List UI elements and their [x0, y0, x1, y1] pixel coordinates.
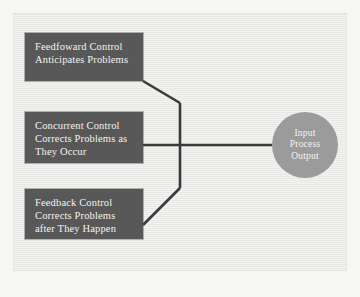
node-feedforward-line-1: Feedfoward Control: [35, 40, 134, 53]
node-system-line-3: Output: [291, 151, 319, 163]
node-concurrent-line-3: They Occur: [35, 145, 134, 158]
node-feedforward-control: Feedfoward Control Anticipates Problems: [25, 33, 143, 81]
node-feedback-line-2: Corrects Problems: [35, 209, 134, 222]
node-concurrent-line-2: Corrects Problems as: [35, 132, 134, 145]
node-system-line-1: Input: [294, 128, 315, 140]
diagram-canvas: Feedfoward Control Anticipates Problems …: [0, 0, 360, 297]
node-system-line-2: Process: [290, 139, 320, 151]
node-feedback-line-3: after They Happen: [35, 222, 134, 235]
node-input-process-output: Input Process Output: [272, 112, 338, 178]
node-concurrent-line-1: Concurrent Control: [35, 119, 134, 132]
node-feedback-line-1: Feedback Control: [35, 196, 134, 209]
node-concurrent-control: Concurrent Control Corrects Problems as …: [25, 112, 143, 163]
node-feedforward-line-2: Anticipates Problems: [35, 53, 134, 66]
node-feedback-control: Feedback Control Corrects Problems after…: [25, 189, 143, 239]
